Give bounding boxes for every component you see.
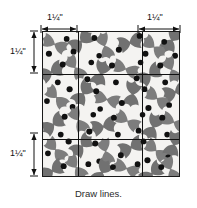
dimension-arrow-top-left [40,25,78,33]
dimension-top-left: 1¼" [40,14,80,32]
figure-caption: Draw lines. [0,188,197,199]
dimension-label-top-right: 1¼" [147,13,163,22]
holly-print-pattern [43,32,179,176]
quilting-diagram: 1¼" 1¼" 1¼" 1¼" [0,0,197,208]
dimension-left-lower: 1¼" [10,132,42,178]
dimension-label-left-upper: 1¼" [10,47,26,56]
dimension-label-top-left: 1¼" [47,13,63,22]
fabric-square [42,31,180,177]
dimension-arrow-left-lower [30,132,38,177]
dimension-arrow-left-upper [30,30,38,74]
dimension-left-upper: 1¼" [10,30,42,76]
dimension-label-left-lower: 1¼" [10,149,26,158]
dimension-arrow-top-right [137,25,181,33]
dimension-top-right: 1¼" [137,14,183,32]
